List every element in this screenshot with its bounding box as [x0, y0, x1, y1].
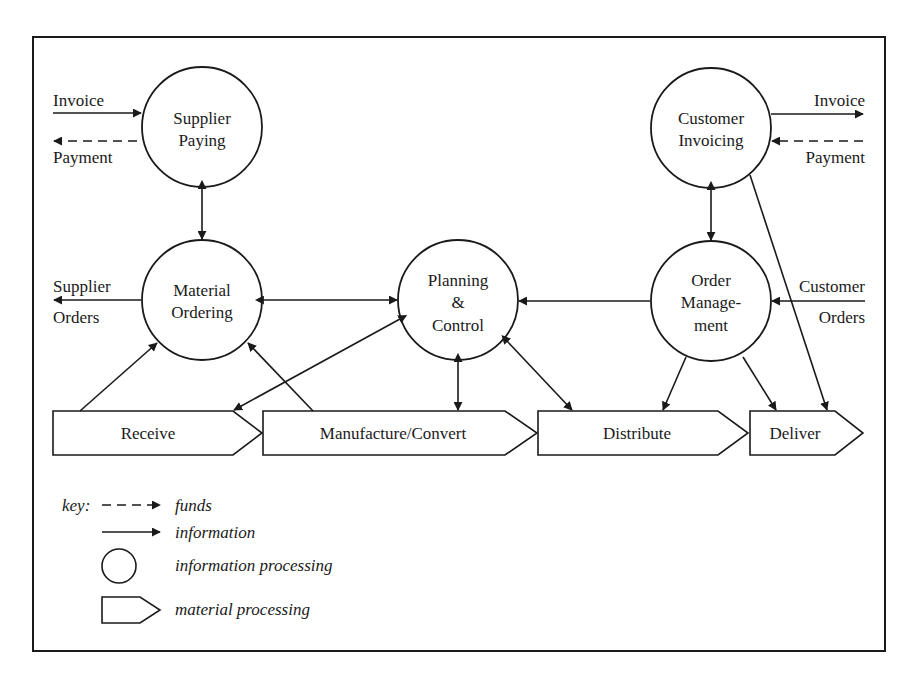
supply-chain-diagram: Supplier Paying Customer Invoicing Mater… [0, 0, 915, 683]
node-customer-invoicing: Customer Invoicing [651, 68, 771, 188]
link-planning-receive [234, 319, 400, 410]
flow-label: Payment [806, 148, 866, 167]
node-label: Planning [428, 271, 489, 290]
node-label: Paying [178, 131, 226, 150]
process-deliver: Deliver [750, 411, 863, 455]
node-label: ment [694, 316, 728, 335]
process-label: Receive [121, 424, 176, 443]
process-distribute: Distribute [538, 411, 748, 455]
process-receive: Receive [53, 411, 262, 455]
legend-pentagon-icon [102, 597, 160, 623]
process-label: Manufacture/Convert [320, 424, 467, 443]
flow-label: Customer [799, 277, 865, 296]
flow-supplier-orders: Supplier Orders [53, 277, 141, 327]
node-label: Material [173, 281, 231, 300]
link-order-management-distribute [663, 357, 686, 410]
link-order-management-deliver [743, 357, 776, 410]
node-label: & [451, 293, 464, 312]
flow-label: Orders [819, 308, 865, 327]
node-order-management: Order Manage- ment [651, 241, 771, 361]
node-label: Supplier [173, 109, 231, 128]
node-label: Control [432, 316, 484, 335]
node-planning-control: Planning & Control [398, 240, 518, 360]
flow-label: Supplier [53, 277, 111, 296]
node-supplier-paying: Supplier Paying [142, 67, 262, 187]
legend-information-processing: information processing [175, 556, 333, 575]
legend: key: funds information information proce… [62, 496, 333, 623]
node-label: Manage- [681, 293, 742, 312]
flow-supplier-payment: Payment [53, 141, 137, 167]
node-label: Order [691, 271, 731, 290]
process-label: Distribute [603, 424, 671, 443]
flow-label: Payment [53, 148, 113, 167]
legend-material-processing: material processing [175, 600, 310, 619]
legend-circle-icon [102, 549, 136, 583]
flow-supplier-invoice: Invoice [53, 91, 141, 113]
link-manufacture-material-ordering [248, 343, 313, 411]
flow-customer-invoice: Invoice [771, 91, 865, 114]
link-planning-distribute [507, 341, 572, 410]
node-label: Invoicing [678, 131, 744, 150]
process-label: Deliver [770, 424, 821, 443]
legend-title: key: [62, 496, 90, 515]
legend-funds: funds [175, 496, 212, 515]
node-label: Ordering [171, 303, 233, 322]
node-material-ordering: Material Ordering [142, 240, 262, 360]
legend-information: information [175, 523, 255, 542]
node-label: Customer [678, 109, 744, 128]
link-receive-material-ordering [80, 343, 157, 411]
flow-label: Invoice [814, 91, 865, 110]
flow-label: Invoice [53, 91, 104, 110]
flow-label: Orders [53, 308, 99, 327]
process-manufacture: Manufacture/Convert [263, 411, 537, 455]
flow-customer-payment: Payment [772, 141, 865, 167]
